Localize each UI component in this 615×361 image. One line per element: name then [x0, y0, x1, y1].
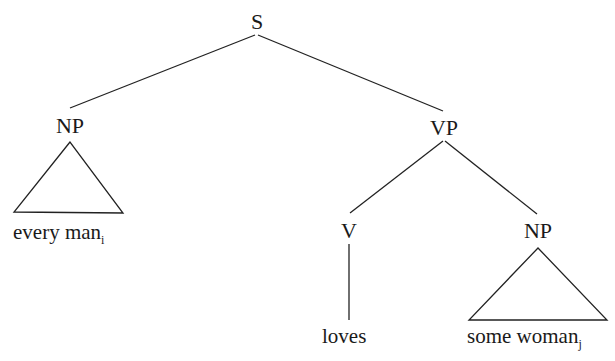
node-np-subject: NP	[56, 115, 84, 137]
leaf-object-index: j	[578, 337, 581, 351]
leaf-subject-index: i	[101, 233, 104, 247]
leaf-verb-text: loves	[322, 324, 366, 348]
triangle-np-object	[469, 248, 607, 320]
edge-s-vp	[258, 35, 443, 111]
node-s: S	[251, 11, 263, 33]
edge-vp-np	[445, 141, 537, 214]
node-vp: VP	[430, 117, 458, 139]
edge-vp-v	[350, 141, 443, 213]
triangle-np-subject	[14, 142, 123, 213]
node-np-object: NP	[524, 220, 552, 242]
leaf-subject-text: every man	[13, 220, 101, 244]
leaf-subject: every mani	[13, 222, 104, 251]
node-v: V	[341, 220, 357, 242]
leaf-object: some womanj	[467, 326, 582, 355]
leaf-verb: loves	[322, 326, 366, 347]
tree-edges	[0, 0, 615, 361]
leaf-object-text: some woman	[467, 324, 578, 348]
edge-s-np	[70, 35, 255, 108]
